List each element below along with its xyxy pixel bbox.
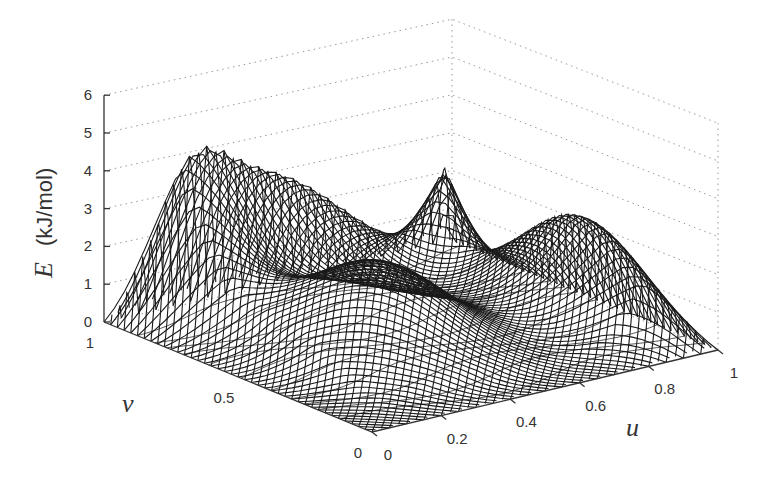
u-tick-label: 0.2 xyxy=(447,430,468,447)
z-tick-label: 3 xyxy=(84,200,92,217)
z-axis-label-unit: (kJ/mol) xyxy=(32,168,57,246)
surface-plot: 012345600.20.40.60.8100.51 E (kJ/mol) v … xyxy=(0,0,760,478)
u-tick-label: 1 xyxy=(730,364,738,381)
z-tick-label: 4 xyxy=(84,162,92,179)
v-tick-label: 0 xyxy=(354,444,362,461)
z-tick-label: 6 xyxy=(84,86,92,103)
z-tick-label: 0 xyxy=(84,313,92,330)
u-tick-label: 0.6 xyxy=(585,397,606,414)
u-tick-label: 0.4 xyxy=(516,413,537,430)
u-tick-label: 0 xyxy=(384,446,392,463)
v-tick-label: 0.5 xyxy=(214,389,235,406)
v-axis-label: v xyxy=(122,389,134,418)
v-tick-label: 1 xyxy=(86,334,94,351)
z-tick-label: 1 xyxy=(84,275,92,292)
z-tick-label: 2 xyxy=(84,237,92,254)
u-tick-label: 0.8 xyxy=(654,380,675,397)
z-tick-label: 5 xyxy=(84,124,92,141)
z-axis-label-var: E xyxy=(29,262,58,279)
u-axis-label: u xyxy=(626,413,639,442)
